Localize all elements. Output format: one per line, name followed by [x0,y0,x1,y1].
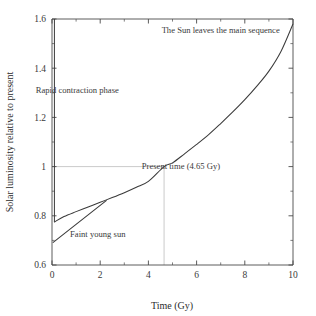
chart-background [0,0,316,316]
annotation-faint-young-sun: Faint young sun [70,229,126,239]
x-tick-label: 8 [242,270,247,280]
x-tick-label: 4 [146,270,151,280]
x-tick-label: 10 [288,270,298,280]
chart-figure: 02468100.60.811.21.41.6 The Sun leaves t… [0,0,316,316]
x-tick-label: 2 [98,270,103,280]
annotation-rapid-contraction: Rapid contraction phase [36,85,119,95]
x-tick-label: 6 [194,270,199,280]
y-tick-label: 1.4 [34,64,46,74]
y-tick-label: 0.8 [34,211,46,221]
y-axis-title: Solar luminosity relative to present [4,72,15,213]
x-tick-label: 0 [50,270,55,280]
annotation-main-sequence-exit: The Sun leaves the main sequence [162,25,280,35]
annotation-present-time: Present time (4.65 Gy) [142,161,220,171]
y-tick-label: 1 [41,162,46,172]
y-tick-label: 1.2 [34,113,46,123]
y-tick-label: 0.6 [34,260,46,270]
y-tick-label: 1.6 [34,14,46,24]
x-axis-title: Time (Gy) [151,300,193,312]
solar-luminosity-chart: 02468100.60.811.21.41.6 The Sun leaves t… [0,0,316,316]
